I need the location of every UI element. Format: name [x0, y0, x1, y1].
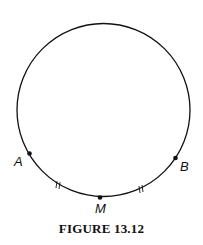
point-a-dot: [27, 151, 32, 156]
tick-mark-mb-icon: [139, 185, 143, 193]
point-b-label: B: [180, 160, 189, 173]
figure-caption: FIGURE 13.12: [0, 221, 203, 237]
circle: [17, 24, 190, 197]
point-b-dot: [173, 156, 178, 161]
figure: A M B FIGURE 13.12: [0, 0, 203, 245]
point-m-dot: [98, 195, 103, 200]
point-a-label: A: [14, 155, 23, 168]
point-m-label: M: [95, 202, 106, 215]
tick-mark-am-icon: [56, 181, 60, 189]
